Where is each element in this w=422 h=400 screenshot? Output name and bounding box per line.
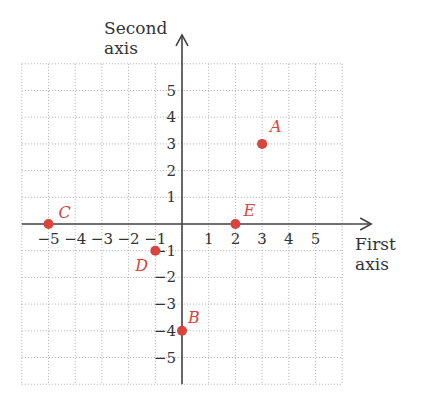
x-tick-label: 3 (257, 230, 267, 248)
y-tick-label: −5 (154, 349, 176, 367)
point-label-c: C (59, 203, 71, 222)
point-c (44, 219, 54, 229)
y-tick-label: −2 (154, 268, 176, 286)
point-label-d: D (134, 256, 148, 275)
y-axis-label-line1: Second (104, 18, 167, 38)
point-d (150, 246, 160, 256)
axes (22, 35, 371, 384)
x-axis-label-line2: axis (355, 254, 389, 274)
x-tick-label: 2 (231, 230, 241, 248)
x-tick-label: −2 (118, 230, 140, 248)
point-label-e: E (242, 201, 255, 220)
y-tick-label: −3 (154, 295, 176, 313)
x-tick-label: −5 (37, 230, 59, 248)
point-b (177, 326, 187, 336)
y-tick-label: −4 (154, 322, 176, 340)
point-label-b: B (187, 308, 200, 327)
x-tick-label: −3 (91, 230, 113, 248)
y-tick-label: 2 (166, 162, 176, 180)
x-tick-label: 5 (311, 230, 321, 248)
x-axis-label-line1: First (355, 234, 396, 254)
x-tick-label: 4 (284, 230, 294, 248)
x-tick-label: −4 (64, 230, 86, 248)
y-tick-label: 4 (166, 108, 176, 126)
x-tick-label: 1 (204, 230, 214, 248)
point-a (257, 139, 267, 149)
y-axis-label-line2: axis (104, 38, 138, 58)
y-tick-label: 3 (166, 135, 176, 153)
y-tick-label: 5 (166, 82, 176, 100)
point-label-a: A (268, 117, 282, 136)
coordinate-plane: −5−4−3−2−112345−5−4−3−2−112345 ABCDE Sec… (0, 0, 422, 400)
point-e (230, 219, 240, 229)
y-tick-label: 1 (166, 188, 176, 206)
